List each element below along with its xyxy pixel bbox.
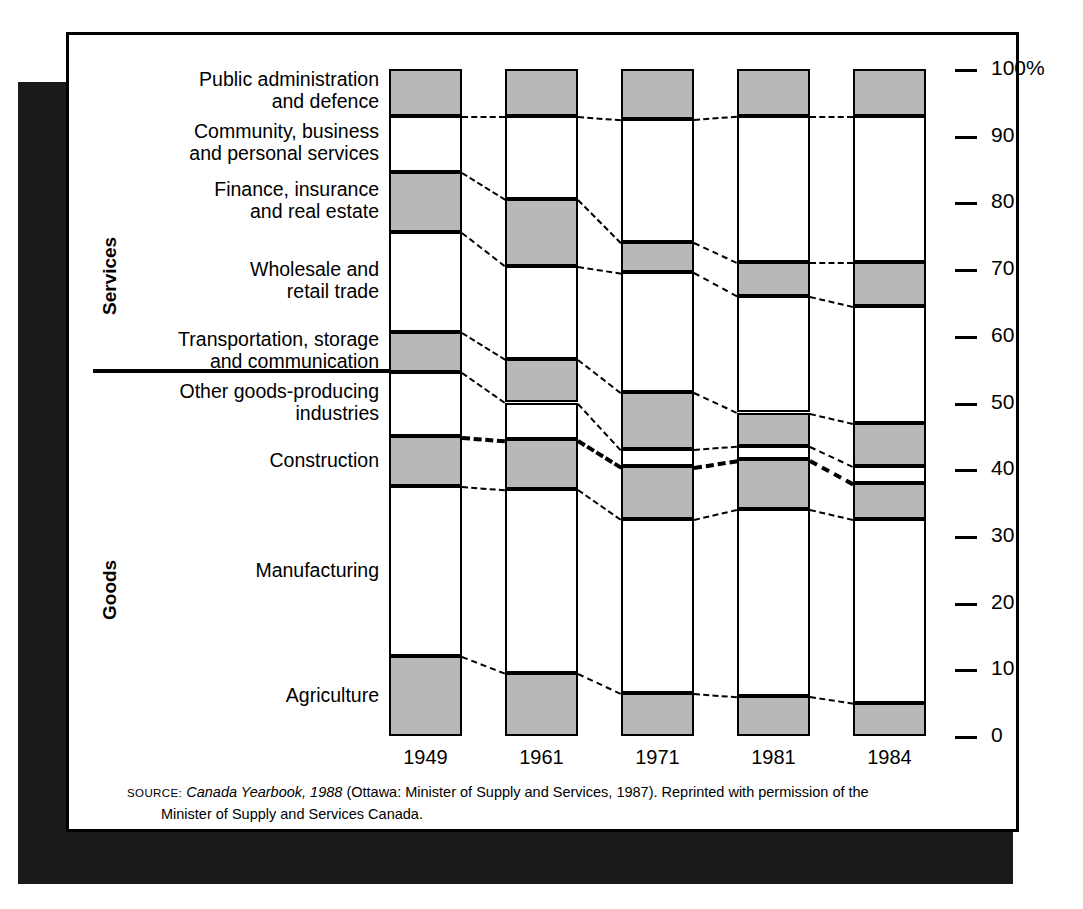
tick-label: 80 <box>991 189 1014 213</box>
bar-segment[interactable] <box>853 262 926 305</box>
bar-segment[interactable] <box>621 466 694 519</box>
bar-segment[interactable] <box>621 119 694 242</box>
x-axis-label-1984: 1984 <box>840 746 940 769</box>
bar-segment[interactable] <box>853 69 926 116</box>
panel-shadow-left <box>18 82 66 854</box>
bar-segment[interactable] <box>505 199 578 266</box>
category-label-line2: and real estate <box>79 201 379 223</box>
boundary-connector <box>462 656 506 675</box>
bar-segment[interactable] <box>737 696 810 736</box>
source-rest: (Ottawa: Minister of Supply and Services… <box>342 784 868 800</box>
bar-segment[interactable] <box>505 359 578 402</box>
category-label-line1: Other goods-producing <box>79 381 379 403</box>
category-label: Transportation, storageand communication <box>79 329 379 373</box>
bar-segment[interactable] <box>389 69 462 116</box>
category-label-line2: retail trade <box>79 281 379 303</box>
bar-segment[interactable] <box>389 436 462 486</box>
tick-label: 60 <box>991 323 1014 347</box>
bar-segment[interactable] <box>853 483 926 520</box>
bar-segment[interactable] <box>737 446 810 459</box>
bar-column-1961[interactable] <box>505 69 578 736</box>
bar-segment[interactable] <box>389 372 462 435</box>
bar-segment[interactable] <box>737 459 810 509</box>
bar-segment[interactable] <box>737 69 810 116</box>
category-label: Public administrationand defence <box>79 69 379 113</box>
boundary-connector <box>694 116 737 121</box>
bar-segment[interactable] <box>505 403 578 440</box>
group-label-goods: Goods <box>99 560 121 620</box>
bar-segment[interactable] <box>737 413 810 446</box>
boundary-connector <box>462 116 505 118</box>
tick-mark <box>955 469 977 472</box>
bar-segment[interactable] <box>737 509 810 696</box>
bar-segment[interactable] <box>505 439 578 489</box>
tick-mark <box>955 202 977 205</box>
bar-segment[interactable] <box>505 116 578 199</box>
x-axis-label-1949: 1949 <box>376 746 476 769</box>
bar-segment[interactable] <box>853 519 926 702</box>
bar-segment[interactable] <box>389 116 462 173</box>
source-lead-label: SOURCE: <box>127 787 182 799</box>
bar-segment[interactable] <box>505 69 578 116</box>
bar-segment[interactable] <box>621 272 694 392</box>
bar-segment[interactable] <box>505 266 578 359</box>
boundary-connector <box>810 413 853 425</box>
bar-segment[interactable] <box>389 486 462 656</box>
bar-segment[interactable] <box>389 332 462 372</box>
tick-label: 100% <box>991 56 1045 80</box>
bar-segment[interactable] <box>389 232 462 332</box>
x-axis-label-1961: 1961 <box>492 746 592 769</box>
tick-mark <box>955 669 977 672</box>
bar-segment[interactable] <box>389 656 462 736</box>
boundary-connector <box>577 489 621 521</box>
category-label: Construction <box>79 450 379 472</box>
bar-segment[interactable] <box>853 466 926 483</box>
bar-segment[interactable] <box>737 296 810 413</box>
boundary-connector <box>578 266 621 275</box>
category-label: Community, businessand personal services <box>79 121 379 165</box>
bar-column-1981[interactable] <box>737 69 810 736</box>
boundary-connector <box>461 333 505 361</box>
category-label-line2: industries <box>79 403 379 425</box>
bar-segment[interactable] <box>505 489 578 672</box>
boundary-connector <box>461 233 505 268</box>
boundary-connector <box>462 436 505 443</box>
bar-segment[interactable] <box>621 693 694 736</box>
bar-segment[interactable] <box>737 262 810 295</box>
bar-column-1971[interactable] <box>621 69 694 736</box>
bar-segment[interactable] <box>621 392 694 449</box>
boundary-connector <box>578 673 622 695</box>
tick-mark <box>955 69 977 72</box>
category-label-line1: Community, business <box>79 121 379 143</box>
tick-mark <box>955 336 977 339</box>
bar-column-1949[interactable] <box>389 69 462 736</box>
boundary-connector <box>694 446 737 451</box>
boundary-connector <box>810 696 853 705</box>
tick-label: 90 <box>991 123 1014 147</box>
bar-segment[interactable] <box>853 306 926 423</box>
boundary-connector <box>577 359 621 394</box>
bar-segment[interactable] <box>737 116 810 263</box>
boundary-connector <box>694 509 737 521</box>
boundary-connector <box>810 509 853 521</box>
tick-label: 10 <box>991 656 1014 680</box>
boundary-connector <box>577 199 621 244</box>
bar-segment[interactable] <box>389 172 462 232</box>
bar-segment[interactable] <box>621 242 694 272</box>
category-label-line1: Manufacturing <box>79 560 379 582</box>
stacked-bar-plot: 19491961197119811984100%9080706050403020… <box>69 35 1022 835</box>
bar-segment[interactable] <box>853 703 926 736</box>
bar-segment[interactable] <box>621 519 694 692</box>
bar-segment[interactable] <box>853 116 926 263</box>
bar-segment[interactable] <box>621 69 694 119</box>
bar-segment[interactable] <box>505 673 578 736</box>
bar-segment[interactable] <box>853 423 926 466</box>
goods-services-divider <box>93 369 389 373</box>
category-label: Wholesale andretail trade <box>79 259 379 303</box>
bar-segment[interactable] <box>621 449 694 466</box>
bar-column-1984[interactable] <box>853 69 926 736</box>
category-label-line1: Finance, insurance <box>79 179 379 201</box>
x-axis-label-1971: 1971 <box>608 746 708 769</box>
boundary-connector <box>694 693 737 698</box>
category-label: Finance, insuranceand real estate <box>79 179 379 223</box>
